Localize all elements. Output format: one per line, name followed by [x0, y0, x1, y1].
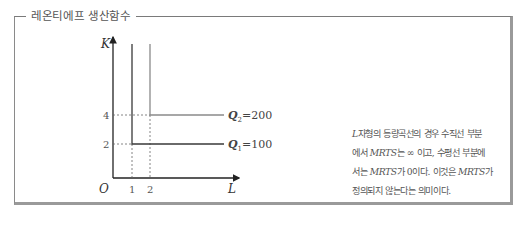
q1-label: Q1=100	[228, 138, 272, 153]
origin-label: O	[99, 182, 109, 196]
x-tick-2: 2	[147, 184, 153, 195]
x-axis-label: L	[227, 182, 236, 196]
isoquant-q1	[132, 44, 224, 144]
x-tick-1: 1	[129, 184, 135, 195]
q2-label: Q2=200	[228, 109, 272, 124]
y-tick-4: 4	[103, 110, 109, 121]
isoquant-q2	[150, 44, 224, 115]
y-axis-label: K	[100, 37, 111, 51]
y-tick-2: 2	[103, 139, 109, 150]
description-text: L자형의 등량곡선의 경우 수직선 부분 에서 MRTS는 ∞ 이고, 수평선 …	[352, 124, 512, 200]
